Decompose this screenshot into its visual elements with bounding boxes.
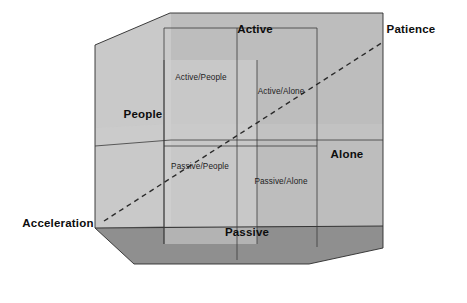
- axis-label-people: People: [124, 108, 163, 120]
- axis-label-patience: Patience: [387, 23, 436, 35]
- axis-label-acceleration: Acceleration: [22, 217, 93, 229]
- diagram-canvas: Active Passive People Alone Patience Acc…: [0, 0, 467, 303]
- cube-diagram-svg: Active Passive People Alone Patience Acc…: [0, 0, 467, 303]
- quadrant-label-passive-people: Passive/People: [171, 162, 229, 171]
- cube-left-face: [95, 13, 171, 228]
- quadrant-label-active-alone: Active/Alone: [258, 87, 305, 96]
- axis-label-passive: Passive: [225, 226, 269, 238]
- axis-label-alone: Alone: [331, 148, 364, 160]
- quadrant-label-active-people: Active/People: [175, 73, 227, 82]
- axis-label-active: Active: [237, 23, 273, 35]
- quadrant-label-passive-alone: Passive/Alone: [254, 177, 308, 186]
